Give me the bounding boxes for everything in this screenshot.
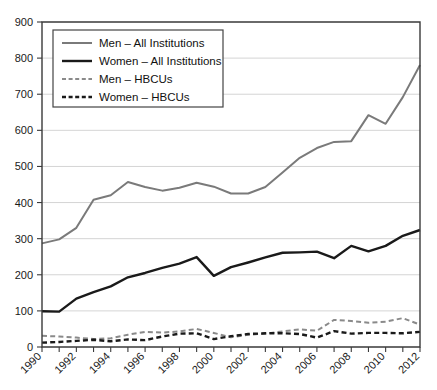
y-axis-tick-labels: 0100200300400500600700800900 — [15, 16, 33, 353]
x-tick-label: 1996 — [121, 350, 147, 376]
y-tick-label: 800 — [15, 52, 33, 64]
x-tick-label: 1992 — [52, 350, 78, 376]
x-tick-label: 2002 — [224, 350, 250, 376]
y-tick-label: 100 — [15, 305, 33, 317]
y-tick-label: 0 — [27, 341, 33, 353]
series-line-3 — [42, 331, 420, 343]
y-tick-label: 500 — [15, 160, 33, 172]
x-axis-ticks — [42, 347, 420, 352]
y-tick-label: 600 — [15, 124, 33, 136]
y-tick-label: 200 — [15, 269, 33, 281]
chart-canvas: 0100200300400500600700800900 19901992199… — [0, 0, 437, 390]
y-tick-label: 900 — [15, 16, 33, 28]
legend-label-1: Women – All Institutions — [99, 55, 222, 67]
y-axis-ticks — [37, 22, 42, 347]
chart-legend: Men – All InstitutionsWomen – All Instit… — [53, 30, 223, 107]
series-line-1 — [42, 230, 420, 312]
x-tick-label: 2006 — [293, 350, 319, 376]
x-tick-label: 1994 — [86, 350, 112, 376]
x-tick-label: 2010 — [361, 350, 387, 376]
legend-label-3: Women – HBCUs — [99, 91, 190, 103]
y-tick-label: 400 — [15, 197, 33, 209]
x-tick-label: 2000 — [189, 350, 215, 376]
x-tick-label: 2012 — [396, 350, 422, 376]
legend-label-0: Men – All Institutions — [99, 37, 205, 49]
line-chart: 0100200300400500600700800900 19901992199… — [0, 0, 437, 390]
x-axis-tick-labels: 1990199219941996199820002002200420062008… — [18, 350, 422, 376]
x-tick-label: 2008 — [327, 350, 353, 376]
x-tick-label: 2004 — [258, 350, 284, 376]
y-tick-label: 300 — [15, 233, 33, 245]
y-tick-label: 700 — [15, 88, 33, 100]
legend-label-2: Men – HBCUs — [99, 73, 173, 85]
x-tick-label: 1998 — [155, 350, 181, 376]
x-tick-label: 1990 — [18, 350, 44, 376]
